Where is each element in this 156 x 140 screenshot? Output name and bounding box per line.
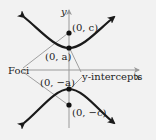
hyperbola-diagram: y x (0, c) (0, a) (0, −a) (0, −c) Foci y… [0, 0, 156, 140]
focus-top-label: (0, c) [72, 22, 98, 33]
vertex-top-label: (0, a) [45, 51, 72, 62]
foci-annotation: Foci [8, 65, 29, 76]
foci-leader-lines [23, 34, 67, 104]
focus-bottom-label: (0, −c) [72, 107, 107, 118]
vertex-top-point [66, 45, 71, 50]
focus-bottom-point [66, 102, 71, 107]
focus-top-point [66, 30, 71, 35]
vertex-bottom-label: (0, −a) [40, 77, 75, 88]
y-intercepts-annotation: y-intercepts [81, 71, 142, 82]
y-axis-label: y [60, 6, 67, 17]
